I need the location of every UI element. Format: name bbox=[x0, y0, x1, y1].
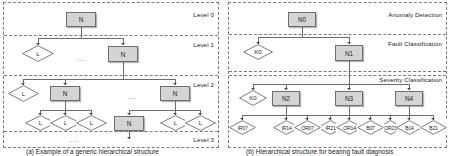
edge-b-n4-bus bbox=[370, 115, 433, 116]
band-divider-fault bbox=[229, 71, 446, 72]
node-label: N bbox=[121, 51, 126, 58]
node-label: K0 bbox=[254, 49, 261, 55]
node-a-root[interactable]: N bbox=[66, 12, 96, 27]
node-label: L bbox=[174, 120, 177, 126]
leaf-b-g2-0[interactable]: OR07 bbox=[294, 120, 321, 135]
arrow-to-b-n2 bbox=[284, 88, 288, 90]
node-b-k0-b[interactable]: K0 bbox=[239, 90, 267, 106]
node-label: N1 bbox=[345, 50, 353, 57]
arrow-to-a-l3-node bbox=[127, 113, 131, 115]
node-a-l2-node1[interactable]: N bbox=[50, 86, 80, 101]
arrow-to-b-n1 bbox=[347, 42, 351, 44]
caption-panel-b: (b) Hierarchical structure for bearing f… bbox=[246, 148, 393, 156]
node-label: N bbox=[79, 16, 84, 23]
node-a-l1-node[interactable]: N bbox=[108, 46, 138, 62]
band-divider-anomaly bbox=[229, 34, 446, 35]
node-b-n1[interactable]: N1 bbox=[335, 45, 363, 61]
edge-level2-bus bbox=[23, 79, 176, 80]
node-label: L bbox=[90, 120, 93, 126]
leaf-label: OR21 bbox=[384, 125, 397, 131]
node-a-l3-leaf3[interactable]: L bbox=[76, 115, 107, 131]
band-label-level-3: Level 3 bbox=[193, 136, 214, 143]
band-label-level-0: Level 0 bbox=[193, 11, 214, 18]
node-label: L bbox=[39, 120, 42, 126]
node-label: K0 bbox=[249, 95, 256, 101]
band-divider-0 bbox=[4, 35, 218, 36]
node-label: L bbox=[64, 120, 67, 126]
node-label: N bbox=[173, 90, 178, 97]
edge-level1-bus bbox=[38, 38, 124, 39]
edge-a-l1-join bbox=[123, 74, 124, 79]
band-divider-2 bbox=[4, 131, 218, 132]
node-label: L bbox=[22, 91, 25, 97]
edge-b-n4-down bbox=[409, 106, 410, 115]
node-a-l2-leaf[interactable]: L bbox=[8, 85, 39, 102]
arrow-a-l3-node-down bbox=[127, 137, 131, 139]
node-b-k0-a[interactable]: K0 bbox=[243, 44, 273, 60]
node-b-n4[interactable]: N4 bbox=[395, 91, 423, 106]
edge-a-l1-down bbox=[123, 62, 124, 74]
node-b-n3[interactable]: N3 bbox=[335, 91, 363, 106]
panel-bearing-fault-hierarchy: Anomaly Detection Fault Classification S… bbox=[228, 2, 447, 148]
edge-b-n1-down bbox=[349, 61, 350, 84]
node-label: N bbox=[127, 120, 132, 127]
band-label-severity-classification: Severity Classification bbox=[379, 76, 442, 83]
band-label-level-1: Level 1 bbox=[193, 41, 214, 48]
node-label: N bbox=[63, 90, 68, 97]
leaf-label: IR14 bbox=[281, 125, 291, 131]
edge-b-n2-down bbox=[286, 106, 287, 115]
band-divider-1 bbox=[4, 75, 218, 76]
node-label: L bbox=[36, 51, 39, 57]
leaf-label: OR14 bbox=[343, 125, 356, 131]
edge-b-severity-bus bbox=[253, 84, 409, 85]
arrow-to-b-n4 bbox=[407, 88, 411, 90]
figure-container: Level 0 Level 1 Level 2 Level 3 N L ... … bbox=[0, 0, 451, 156]
leaf-label: IR21 bbox=[325, 125, 335, 131]
leaf-label: B14 bbox=[405, 125, 414, 131]
edge-b-level1-bus bbox=[258, 37, 350, 38]
node-a-l3-leaf5[interactable]: L bbox=[185, 115, 216, 131]
node-a-l2-node2[interactable]: N bbox=[160, 86, 190, 101]
leaf-label: B21 bbox=[429, 125, 438, 131]
edge-b-n0-down bbox=[302, 27, 303, 37]
leaf-b-g1-0[interactable]: IR07 bbox=[229, 120, 256, 135]
edge-a-l2n2-down bbox=[175, 101, 176, 110]
ellipsis-level-3: ... bbox=[70, 136, 79, 143]
leaf-b-g3-2[interactable]: B21 bbox=[420, 120, 447, 135]
node-label: N4 bbox=[405, 95, 413, 102]
node-b-n2[interactable]: N2 bbox=[272, 91, 300, 106]
node-a-l3-node[interactable]: N bbox=[114, 116, 144, 131]
edge-a-l2n1-down bbox=[65, 101, 66, 110]
band-label-anomaly-detection: Anomaly Detection bbox=[388, 11, 442, 18]
node-label: N2 bbox=[282, 95, 290, 102]
panel-generic-hierarchy: Level 0 Level 1 Level 2 Level 3 N L ... … bbox=[3, 2, 219, 148]
node-label: N0 bbox=[298, 16, 306, 23]
edge-root-down bbox=[81, 27, 82, 38]
edge-b-n3-down bbox=[349, 106, 350, 115]
node-b-n0[interactable]: N0 bbox=[288, 12, 316, 27]
leaf-label: IR07 bbox=[237, 125, 247, 131]
band-label-level-2: Level 2 bbox=[193, 81, 214, 88]
arrow-to-b-n3 bbox=[347, 88, 351, 90]
node-label: L bbox=[199, 120, 202, 126]
arrow-to-a-l1-node bbox=[121, 43, 125, 45]
leaf-label: B07 bbox=[366, 125, 375, 131]
leaf-label: OR07 bbox=[301, 125, 314, 131]
caption-panel-a: (a) Example of a generic hierarchical st… bbox=[26, 148, 159, 156]
edge-a-l2n2-bus bbox=[129, 110, 200, 111]
ellipsis-level-1: ... bbox=[77, 55, 86, 62]
leaf-b-g3-1[interactable]: B14 bbox=[396, 120, 423, 135]
arrow-to-a-l2-node1 bbox=[63, 83, 67, 85]
node-a-l1-leaf[interactable]: L bbox=[22, 45, 54, 62]
leaf-b-g3-0[interactable]: B07 bbox=[357, 120, 384, 135]
arrow-to-a-l2-node2 bbox=[173, 83, 177, 85]
node-label: N3 bbox=[345, 95, 353, 102]
band-label-fault-classification: Fault Classification bbox=[388, 40, 442, 47]
ellipsis-level-2: ... bbox=[128, 93, 137, 100]
